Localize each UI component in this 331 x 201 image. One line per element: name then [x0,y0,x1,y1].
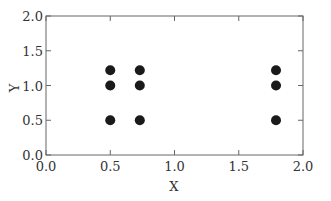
data-point [105,115,115,125]
plot-frame [46,16,303,155]
data-point [135,65,145,75]
plot-border [46,16,303,155]
x-tick-label: 1.5 [228,159,249,174]
data-point [271,65,281,75]
data-point [135,81,145,91]
scatter-chart: 0.00.51.01.52.00.00.51.01.52.0 X Y [0,0,331,201]
data-point [135,115,145,125]
x-tick-label: 0.5 [100,159,121,174]
x-axis-label: X [169,179,179,194]
y-tick-label: 1.0 [22,79,43,94]
x-tick-label: 2.0 [293,159,314,174]
y-tick-label: 0.0 [22,148,43,163]
data-point [271,115,281,125]
data-point [105,65,115,75]
data-points [105,65,281,125]
data-point [105,81,115,91]
y-axis-label: Y [7,83,22,93]
y-tick-label: 2.0 [22,9,43,24]
y-tick-label: 0.5 [22,113,43,128]
y-tick-label: 1.5 [22,44,43,59]
axis-ticks: 0.00.51.01.52.00.00.51.01.52.0 [22,9,313,174]
x-tick-label: 1.0 [164,159,185,174]
data-point [271,81,281,91]
